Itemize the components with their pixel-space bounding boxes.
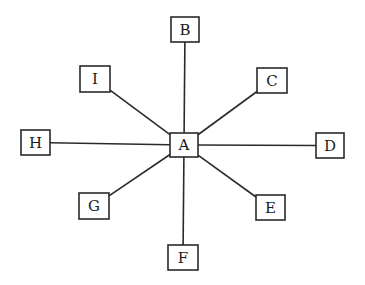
node-label: G (88, 197, 100, 215)
node-label: D (324, 137, 336, 155)
node-a: A (170, 133, 198, 157)
node-label: E (265, 199, 276, 217)
node-f: F (168, 245, 198, 270)
edge-a-i (110, 90, 170, 134)
node-e: E (256, 195, 285, 220)
node-g: G (79, 193, 109, 219)
node-label: I (92, 70, 98, 88)
node-h: H (21, 130, 50, 155)
edge-a-g (109, 154, 170, 195)
node-i: I (80, 66, 110, 92)
node-label: F (178, 249, 188, 267)
node-label: B (179, 21, 190, 39)
edge-a-h (50, 143, 170, 145)
node-label: A (178, 136, 190, 154)
node-d: D (316, 133, 344, 158)
star-diagram: ABCDEFGHI (0, 0, 365, 285)
node-c: C (257, 68, 287, 93)
edge-a-b (184, 42, 185, 133)
node-b: B (171, 17, 199, 42)
node-label: H (29, 134, 42, 152)
edge-a-e (198, 155, 256, 197)
edge-a-f (183, 157, 184, 245)
diagram-svg: ABCDEFGHI (0, 0, 365, 285)
edge-a-c (198, 91, 257, 134)
node-label: C (266, 72, 277, 90)
